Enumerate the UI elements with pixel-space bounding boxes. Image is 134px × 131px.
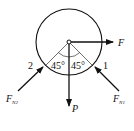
free-body-diagram: 45° 45° 2 1 F P FN2 FN1 — [0, 0, 134, 131]
angle-label-right: 45° — [71, 60, 85, 71]
force-F-label: F — [117, 37, 125, 48]
force-P-label: P — [71, 103, 78, 114]
force-FN2-label: FN2 — [5, 93, 18, 105]
force-FN1-label: FN1 — [112, 93, 125, 105]
point-1-label: 1 — [103, 60, 108, 71]
center-pin — [67, 40, 71, 44]
point-2-label: 2 — [28, 60, 33, 71]
angle-label-left: 45° — [51, 60, 65, 71]
